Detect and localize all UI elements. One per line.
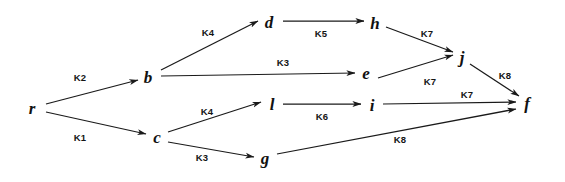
- graph-node-c: c: [153, 129, 161, 146]
- graph-node-f: f: [524, 95, 530, 112]
- edge-label-h-j: K7: [421, 29, 434, 39]
- graph-node-h: h: [370, 15, 379, 32]
- edges-group: [46, 21, 519, 157]
- edge-label-j-f: K8: [499, 71, 512, 81]
- graph-node-l: l: [270, 96, 275, 113]
- graph-edge-c-to-l: [168, 102, 261, 132]
- graph-node-e: e: [362, 65, 370, 82]
- edge-label-c-l: K4: [201, 107, 214, 117]
- edge-label-b-e: K3: [277, 58, 290, 68]
- graph-node-g: g: [261, 150, 270, 167]
- edge-label-b-d: K4: [202, 28, 215, 38]
- graph-edge-b-to-e: [161, 73, 355, 76]
- graph-edge-r-to-b: [46, 80, 138, 104]
- graph-edge-r-to-c: [46, 112, 146, 134]
- graph-edges-canvas: [0, 0, 565, 182]
- graph-node-i: i: [370, 97, 375, 114]
- graph-edge-e-to-j: [378, 55, 453, 78]
- edge-label-r-c: K1: [74, 133, 87, 143]
- edge-label-i-f: K7: [461, 90, 474, 100]
- graph-node-r: r: [29, 100, 36, 117]
- graph-edge-i-to-f: [383, 102, 516, 104]
- edge-label-e-j: K7: [424, 77, 437, 87]
- edge-label-g-f: K8: [394, 135, 407, 145]
- graph-edge-j-to-f: [470, 64, 519, 96]
- graph-diagram: rbcdhejligf K2K1K4K3K5K7K7K8K4K3K6K7K8: [0, 0, 565, 182]
- edge-label-c-g: K3: [196, 153, 209, 163]
- edge-label-l-i: K6: [316, 112, 329, 122]
- graph-edge-h-to-j: [386, 27, 453, 52]
- graph-edge-g-to-f: [277, 109, 516, 154]
- edge-label-r-b: K2: [74, 73, 87, 83]
- edge-label-d-h: K5: [315, 29, 328, 39]
- graph-node-d: d: [265, 14, 274, 31]
- graph-edge-c-to-g: [168, 142, 254, 157]
- graph-node-j: j: [460, 49, 465, 66]
- graph-node-b: b: [144, 69, 153, 86]
